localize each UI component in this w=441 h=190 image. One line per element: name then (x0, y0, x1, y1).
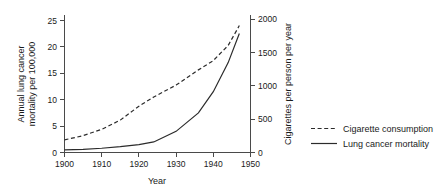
x-ticklabel-1910: 1910 (92, 159, 111, 169)
left-ticklabel-10: 10 (48, 95, 58, 105)
x-ticklabel-1930: 1930 (167, 159, 186, 169)
chart-svg: 25 20 15 10 5 0 Annual lung cancer morta… (0, 0, 441, 190)
right-ticklabel-1500: 1500 (258, 48, 277, 58)
legend-label-cigarette-consumption: Cigarette consumption (343, 124, 433, 134)
left-ticklabel-0: 0 (52, 148, 57, 158)
right-ticklabel-0: 0 (258, 148, 263, 158)
right-ticklabel-1000: 1000 (258, 81, 277, 91)
left-ticklabel-25: 25 (48, 16, 58, 26)
left-ticklabel-20: 20 (48, 42, 58, 52)
plot-series-group (65, 26, 240, 150)
left-ticklabel-15: 15 (48, 68, 58, 78)
left-axis-title-line1: Annual lung cancer (16, 45, 26, 122)
left-y-axis: 25 20 15 10 5 0 (48, 16, 65, 158)
chart-figure: 25 20 15 10 5 0 Annual lung cancer morta… (0, 0, 441, 190)
x-ticklabel-1940: 1940 (204, 159, 223, 169)
right-ticklabel-500: 500 (258, 114, 272, 124)
x-axis-title: Year (148, 176, 166, 186)
legend-label-lung-cancer-mortality: Lung cancer mortality (343, 139, 430, 149)
left-axis-title: Annual lung cancer mortality per 100,000 (16, 42, 37, 127)
x-ticklabel-1900: 1900 (55, 159, 74, 169)
right-y-axis: 2000 1500 1000 500 0 Cigarettes per pers… (251, 14, 294, 157)
x-ticklabel-1920: 1920 (129, 159, 148, 169)
left-axis-title-line2: mortality per 100,000 (27, 42, 37, 127)
chart-legend: Cigarette consumption Lung cancer mortal… (311, 124, 433, 149)
left-ticklabel-5: 5 (52, 121, 57, 131)
right-axis-title: Cigarettes per person per year (283, 23, 293, 145)
x-ticklabel-1950: 1950 (241, 159, 260, 169)
x-axis: 1900 1910 1920 1930 1940 1950 Year (55, 153, 260, 187)
series-lung-cancer-mortality (65, 34, 240, 150)
series-cigarette-consumption (65, 26, 240, 140)
right-ticklabel-2000: 2000 (258, 14, 277, 24)
